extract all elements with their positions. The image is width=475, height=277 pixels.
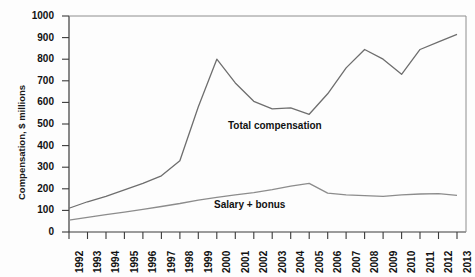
x-tick-label-1998: 1998 <box>184 251 195 273</box>
x-tick-label-1993: 1993 <box>92 251 103 273</box>
x-tick-label-1994: 1994 <box>110 251 121 273</box>
x-tick-label-1997: 1997 <box>166 251 177 273</box>
x-tick-label-2006: 2006 <box>332 251 343 273</box>
x-tick-label-1999: 1999 <box>203 251 214 273</box>
plot-area <box>0 0 475 277</box>
x-tick-label-2008: 2008 <box>369 251 380 273</box>
y-axis-ticks <box>62 16 69 232</box>
x-tick-label-2002: 2002 <box>258 251 269 273</box>
x-tick-label-1996: 1996 <box>147 251 158 273</box>
x-tick-label-2004: 2004 <box>295 251 306 273</box>
x-tick-label-2000: 2000 <box>221 251 232 273</box>
x-tick-label-2009: 2009 <box>388 251 399 273</box>
x-tick-label-2013: 2013 <box>462 251 473 273</box>
chart-container: Compensation, $ millions 1000 900 800 70… <box>0 0 475 277</box>
x-tick-label-2010: 2010 <box>406 251 417 273</box>
x-tick-label-2003: 2003 <box>277 251 288 273</box>
x-tick-label-2011: 2011 <box>425 251 436 273</box>
x-axis-ticks <box>69 232 457 239</box>
x-tick-label-1995: 1995 <box>129 251 140 273</box>
x-tick-label-2001: 2001 <box>240 251 251 273</box>
x-tick-label-2005: 2005 <box>314 251 325 273</box>
x-tick-label-2012: 2012 <box>443 251 454 273</box>
x-tick-label-1992: 1992 <box>74 251 85 273</box>
x-tick-label-2007: 2007 <box>351 251 362 273</box>
annotation-salary-bonus: Salary + bonus <box>214 199 285 210</box>
annotation-total-compensation: Total compensation <box>228 120 322 131</box>
